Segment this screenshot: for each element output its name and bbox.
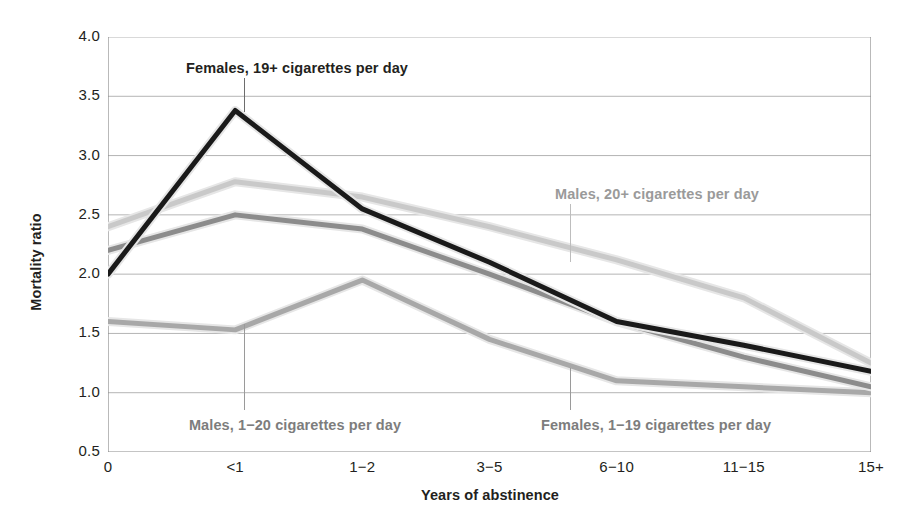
series-annotation-label-1: Males, 20+ cigarettes per day [555,186,759,202]
mortality-ratio-line-chart: Mortality ratio 0.51.01.52.02.53.03.54.0… [0,0,910,524]
x-tick-label-0: 0 [104,458,113,475]
x-tick-label-4: 6−10 [599,458,634,475]
y-tick-label-3.0: 3.0 [54,146,100,163]
x-tick-label-5: 11−15 [723,458,765,475]
annotation-leader-line-3 [570,368,571,410]
x-axis-title-label: Years of abstinence [421,487,559,503]
annotation-leader-line-0 [244,78,245,112]
series-annotation-label-2: Males, 1−20 cigarettes per day [189,417,401,433]
y-tick-label-1.5: 1.5 [54,323,100,340]
series-annotation-label-0: Females, 19+ cigarettes per day [186,60,408,76]
y-tick-label-4.0: 4.0 [54,27,100,44]
y-tick-label-1.0: 1.0 [54,383,100,400]
annotation-leader-line-1 [570,204,571,262]
x-tick-label-1: <1 [226,458,244,475]
x-tick-label-2: 1−2 [349,458,375,475]
x-tick-label-6: 15+ [858,458,884,475]
plot-svg [108,37,871,452]
y-tick-label-0.5: 0.5 [54,442,100,459]
plot-area [108,37,871,452]
y-axis-title-label: Mortality ratio [28,213,44,310]
series-lines [108,111,871,393]
y-tick-label-2.5: 2.5 [54,205,100,222]
x-axis-title: Years of abstinence [108,487,872,503]
series-halo-3 [108,280,871,393]
series-annotation-label-3: Females, 1−19 cigarettes per day [541,417,771,433]
y-axis-tick-labels: 0.51.01.52.02.53.03.54.0 [44,0,100,524]
annotation-leader-line-2 [244,324,245,410]
x-tick-label-3: 3−5 [476,458,502,475]
y-tick-label-2.0: 2.0 [54,264,100,281]
y-tick-label-3.5: 3.5 [54,86,100,103]
